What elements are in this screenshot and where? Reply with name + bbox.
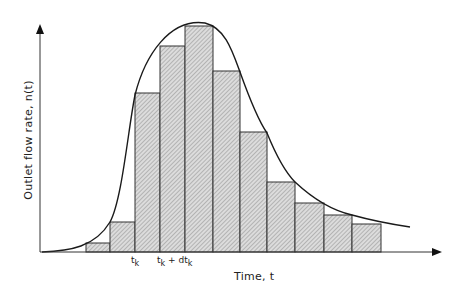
x-axis-label: Time, t <box>234 270 274 283</box>
tick-label-tk: tk <box>131 255 139 268</box>
y-axis-label: Outlet flow rate, n(t) <box>22 80 35 200</box>
histogram-bar <box>86 243 110 252</box>
tick-label-tk-plus-dtk: tk + dtk <box>157 255 192 268</box>
histogram-diagram <box>0 0 458 297</box>
x-axis-arrow-icon <box>432 248 442 256</box>
histogram-bar <box>267 182 295 252</box>
histogram-bar <box>135 93 160 252</box>
histogram-bar <box>240 132 267 252</box>
histogram-bar <box>160 46 185 252</box>
histogram-bar <box>213 71 240 252</box>
histogram-bar <box>185 26 213 252</box>
y-axis-arrow-icon <box>36 24 44 34</box>
histogram-bar <box>110 222 135 252</box>
histogram-bar <box>324 215 352 252</box>
histogram-bar <box>352 224 381 252</box>
histogram-bar <box>295 203 324 252</box>
histogram-bars <box>86 26 381 252</box>
